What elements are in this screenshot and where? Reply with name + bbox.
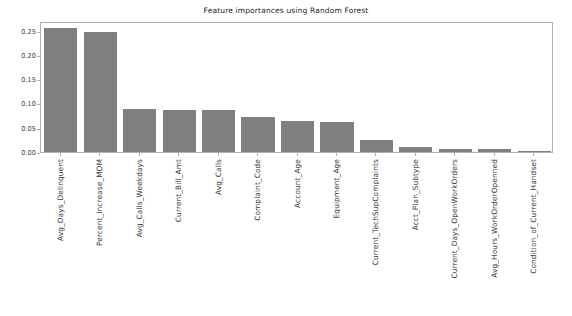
y-tick-label: 0.25 xyxy=(4,28,36,36)
x-tick-mark xyxy=(297,153,298,156)
chart-title: Feature importances using Random Forest xyxy=(0,6,572,15)
bar xyxy=(163,110,196,152)
x-tick-mark xyxy=(99,153,100,156)
x-tick-mark xyxy=(494,153,495,156)
y-tick-mark xyxy=(37,32,40,33)
bar xyxy=(360,140,393,152)
bar xyxy=(281,121,314,152)
y-tick-mark xyxy=(37,80,40,81)
x-tick-label: Current_Bill_Amt xyxy=(174,159,183,222)
x-tick-label: Avg_Calls xyxy=(213,159,222,195)
x-tick-label: Avg_Calls_Weekdays xyxy=(134,159,143,237)
x-tick-label: Acct_Plan_Subtype xyxy=(410,159,419,230)
x-tick-mark xyxy=(454,153,455,156)
x-tick-label: Condition_of_Current_Handset xyxy=(529,159,538,274)
x-tick-mark xyxy=(415,153,416,156)
figure-canvas: Feature importances using Random Forest … xyxy=(0,0,572,316)
x-tick-label: Avg_Hours_WorkOrderOpenned xyxy=(489,159,498,278)
x-tick-mark xyxy=(178,153,179,156)
x-tick-mark xyxy=(257,153,258,156)
bar-series xyxy=(41,23,552,152)
y-tick-mark xyxy=(37,56,40,57)
y-tick-label: 0.00 xyxy=(4,149,36,157)
x-tick-label: Current_Days_OpenWorkOrders xyxy=(450,159,459,279)
x-tick-label: Avg_Days_Delinquent xyxy=(55,159,64,241)
x-tick-label: Account_Age xyxy=(292,159,301,208)
y-tick-label: 0.15 xyxy=(4,76,36,84)
bar xyxy=(44,28,77,152)
bar xyxy=(202,110,235,152)
x-tick-mark xyxy=(60,153,61,156)
bar xyxy=(241,117,274,152)
bar xyxy=(439,149,472,152)
bar xyxy=(518,151,551,152)
bar xyxy=(320,122,353,152)
y-tick-label: 0.10 xyxy=(4,100,36,108)
bar xyxy=(123,109,156,152)
x-tick-mark xyxy=(336,153,337,156)
x-tick-label: Percent_Increase_MOM xyxy=(95,159,104,246)
x-tick-mark xyxy=(218,153,219,156)
bar xyxy=(478,149,511,152)
plot-area xyxy=(40,22,553,153)
x-tick-label: Current_TechSupComplaints xyxy=(371,159,380,265)
y-tick-mark xyxy=(37,129,40,130)
y-tick-label: 0.05 xyxy=(4,125,36,133)
bar xyxy=(399,147,432,152)
y-tick-mark xyxy=(37,153,40,154)
x-tick-mark xyxy=(139,153,140,156)
y-tick-label: 0.20 xyxy=(4,52,36,60)
x-tick-label: Equipment_Age xyxy=(331,159,340,218)
bar xyxy=(84,32,117,152)
y-tick-mark xyxy=(37,104,40,105)
x-tick-label: Complaint_Code xyxy=(253,159,262,221)
x-tick-mark xyxy=(533,153,534,156)
x-tick-mark xyxy=(375,153,376,156)
